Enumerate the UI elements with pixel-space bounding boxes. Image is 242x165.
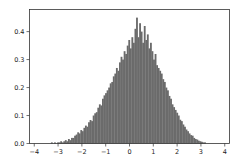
y-tick-label: 0.0 xyxy=(14,140,24,148)
x-axis: −4−3−2−101234 xyxy=(29,144,226,156)
histogram-chart: −4−3−2−101234 0.00.10.20.30.4 xyxy=(0,0,242,165)
y-tick-label: 0.3 xyxy=(14,56,24,64)
y-tick-label: 0.2 xyxy=(14,84,24,92)
x-tick-label: 1 xyxy=(151,148,155,156)
y-tick-label: 0.4 xyxy=(14,28,24,36)
histogram-bars xyxy=(51,18,206,144)
y-axis: 0.00.10.20.30.4 xyxy=(14,28,29,148)
x-tick-label: 0 xyxy=(127,148,131,156)
x-tick-label: −4 xyxy=(29,148,39,156)
x-tick-label: 3 xyxy=(199,148,203,156)
x-tick-label: −3 xyxy=(53,148,63,156)
x-tick-label: 4 xyxy=(223,148,227,156)
x-tick-label: 2 xyxy=(175,148,179,156)
x-tick-label: −1 xyxy=(101,148,111,156)
x-tick-label: −2 xyxy=(77,148,87,156)
y-tick-label: 0.1 xyxy=(14,112,24,120)
